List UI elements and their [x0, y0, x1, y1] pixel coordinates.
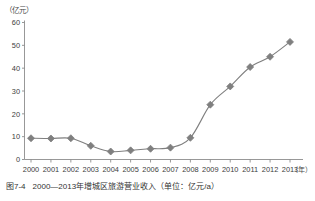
chart-plot-area: 0102030405060 20002001200220032004200520… — [0, 0, 315, 178]
data-point-marker — [47, 135, 54, 142]
data-point-marker — [107, 148, 114, 155]
svg-text:2008: 2008 — [182, 165, 198, 174]
svg-text:2004: 2004 — [102, 165, 118, 174]
data-point-marker — [28, 135, 35, 142]
data-point-marker — [167, 144, 174, 151]
svg-text:10: 10 — [12, 132, 20, 141]
svg-text:2010: 2010 — [222, 165, 238, 174]
y-axis — [22, 21, 25, 160]
svg-text:2001: 2001 — [43, 165, 59, 174]
x-axis-unit-label: （年） — [291, 164, 312, 174]
x-tick-labels: 2000200120022003200420052006200720082009… — [23, 165, 298, 174]
svg-text:20: 20 — [12, 110, 20, 119]
data-point-marker — [127, 147, 134, 154]
svg-text:50: 50 — [12, 41, 20, 50]
data-point-marker — [147, 145, 154, 152]
svg-text:30: 30 — [12, 87, 20, 96]
svg-text:2006: 2006 — [142, 165, 158, 174]
y-tick-labels: 0102030405060 — [12, 18, 20, 164]
svg-text:2012: 2012 — [262, 165, 278, 174]
svg-text:60: 60 — [12, 18, 20, 27]
data-point-marker — [267, 53, 274, 60]
svg-text:2009: 2009 — [202, 165, 218, 174]
y-axis-unit-label: （亿元） — [5, 4, 33, 15]
svg-text:2011: 2011 — [242, 165, 258, 174]
x-axis — [25, 160, 304, 163]
svg-text:2002: 2002 — [63, 165, 79, 174]
svg-text:2003: 2003 — [83, 165, 99, 174]
line-chart-svg: 0102030405060 20002001200220032004200520… — [0, 0, 315, 178]
caption-text: 2000—2013年增城区旅游营业收入（单位：亿元/a） — [33, 182, 219, 191]
data-point-marker — [87, 142, 94, 149]
figure-caption: 图7-42000—2013年增城区旅游营业收入（单位：亿元/a） — [6, 180, 219, 191]
svg-text:2007: 2007 — [162, 165, 178, 174]
svg-text:2005: 2005 — [122, 165, 138, 174]
svg-text:0: 0 — [16, 155, 20, 164]
caption-number: 图7-4 — [6, 182, 26, 191]
figure-container: 0102030405060 20002001200220032004200520… — [0, 0, 315, 201]
svg-text:40: 40 — [12, 64, 20, 73]
data-point-marker — [67, 135, 74, 142]
svg-text:2000: 2000 — [23, 165, 39, 174]
